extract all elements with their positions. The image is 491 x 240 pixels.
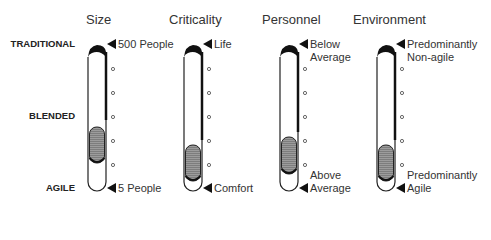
- environment-bottom-label-line2: Agile: [407, 182, 431, 195]
- bottom-marker-arrow: [107, 183, 116, 193]
- top-marker-arrow: [107, 39, 116, 49]
- personnel-top-label-line1: Below: [310, 38, 340, 51]
- criticality-bottom-label: Comfort: [214, 182, 253, 195]
- size-top-label: 500 People: [118, 38, 174, 51]
- fill-segment: [282, 137, 297, 174]
- personnel-top-label-line2: Average: [310, 51, 351, 64]
- environment-top-label-line1: Predominantly: [407, 38, 477, 51]
- top-marker-arrow: [396, 39, 405, 49]
- bottom-marker-arrow: [299, 183, 308, 193]
- tube-personnel: [280, 39, 308, 193]
- personnel-bottom-label-line1: Above: [310, 169, 341, 182]
- top-marker-arrow: [203, 39, 212, 49]
- size-bottom-label: 5 People: [118, 182, 161, 195]
- scale-dots: [303, 67, 306, 166]
- personnel-bottom-label-line2: Average: [310, 182, 351, 195]
- fill-segment: [379, 145, 394, 181]
- bottom-marker-arrow: [396, 183, 405, 193]
- bottom-marker-arrow: [203, 183, 212, 193]
- scale-dots: [400, 67, 403, 166]
- tube-size: [88, 39, 116, 193]
- environment-top-label-line2: Non-agile: [407, 51, 454, 64]
- fill-segment: [90, 127, 105, 163]
- scale-dots: [111, 67, 114, 166]
- scale-dots: [207, 67, 210, 166]
- environment-bottom-label-line1: Predominantly: [407, 169, 477, 182]
- top-marker-arrow: [299, 39, 308, 49]
- criticality-top-label: Life: [214, 38, 232, 51]
- tube-environment: [377, 39, 405, 193]
- fill-segment: [186, 145, 201, 181]
- tube-criticality: [184, 39, 212, 193]
